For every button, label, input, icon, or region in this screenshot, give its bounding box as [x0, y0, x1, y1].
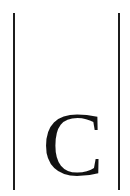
right-vertical-rule	[118, 13, 120, 190]
letter-column: C	[15, 13, 118, 190]
capital-letter-c: C	[15, 111, 118, 177]
document-fragment-page: C	[0, 0, 130, 196]
